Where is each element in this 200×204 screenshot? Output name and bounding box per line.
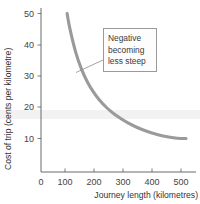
y-tick-label-40: 40 [24, 40, 34, 50]
x-tick-label-0: 0 [38, 177, 43, 187]
callout-line-3: less steep [108, 56, 156, 68]
x-tick-label-100: 100 [57, 177, 72, 187]
x-tick-label-400: 400 [144, 177, 159, 187]
callout-line-1: Negative [108, 33, 156, 45]
x-tick-label-300: 300 [115, 177, 130, 187]
x-tick-label-200: 200 [86, 177, 101, 187]
slope-callout-box: Negative becoming less steep [103, 28, 157, 72]
chart-plot-area: 50 40 30 20 10 0 100 200 300 400 500 Jou… [0, 0, 200, 204]
callout-line-2: becoming [108, 45, 156, 57]
y-axis-title: Cost of trip (cents per kilometre) [3, 48, 13, 170]
y-tick-label-10: 10 [24, 134, 34, 144]
y-tick-label-50: 50 [24, 9, 34, 19]
x-axis-title: Journey length (kilometres) [94, 190, 198, 200]
chart-figure: 50 40 30 20 10 0 100 200 300 400 500 Jou… [0, 0, 200, 204]
x-tick-label-500: 500 [173, 177, 188, 187]
y-tick-label-30: 30 [24, 71, 34, 81]
y-tick-label-20: 20 [24, 102, 34, 112]
